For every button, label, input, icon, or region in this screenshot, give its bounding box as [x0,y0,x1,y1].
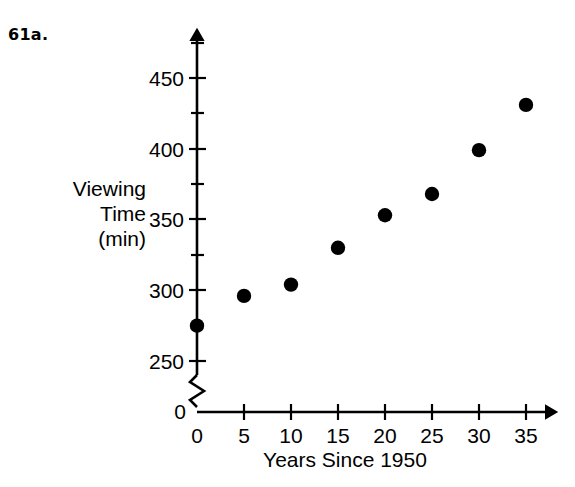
x-tick-label-5: 5 [238,424,250,447]
data-point [190,318,204,332]
x-tick-label-30: 30 [467,424,490,447]
y-tick-label-450: 450 [149,67,184,90]
x-tick-label-15: 15 [326,424,349,447]
y-axis-origin-label: 0 [174,400,186,423]
figure-container: 61a. Viewing Time (min) Years Since 1950… [0,0,575,487]
x-tick-label-10: 10 [279,424,302,447]
data-point [237,289,251,303]
x-tick-label-20: 20 [373,424,396,447]
x-tick-label-25: 25 [420,424,443,447]
data-point [472,143,486,157]
y-tick-label-300: 300 [149,279,184,302]
data-point [284,277,298,291]
scatter-plot: 0 250 300 350 400 450 0 5 [0,0,575,487]
data-point [519,98,533,112]
x-axis-ticks: 0 5 10 15 20 25 30 35 [191,404,538,447]
data-point-series [190,98,533,333]
data-point [425,187,439,201]
x-tick-label-35: 35 [514,424,537,447]
data-point [331,241,345,255]
y-tick-label-400: 400 [149,138,184,161]
y-tick-label-250: 250 [149,350,184,373]
data-point [378,208,392,222]
y-axis-break-zigzag [190,375,204,407]
y-tick-label-350: 350 [149,208,184,231]
x-tick-label-0: 0 [191,424,203,447]
